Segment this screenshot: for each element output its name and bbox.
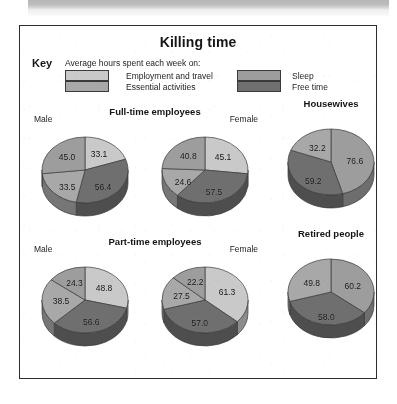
pie-value-label: 45.0 <box>59 152 76 162</box>
pie-canvas-retired-people <box>277 246 385 354</box>
pie-value-label: 49.8 <box>303 278 320 288</box>
pie-sublabel-female-2: Female <box>230 244 258 254</box>
pie-sublabel-male: Male <box>34 114 52 124</box>
pie-value-label: 32.2 <box>309 143 326 153</box>
legend: Key Average hours spent each week on: Em… <box>32 56 366 104</box>
pie-chart-part-time-male: Male 48.856.638.524.3 <box>26 234 144 358</box>
pie-value-label: 33.5 <box>59 182 76 192</box>
legend-swatch-employment-and-travel <box>65 70 109 81</box>
pie-value-label: 56.4 <box>95 182 112 192</box>
pie-value-label: 61.3 <box>219 287 236 297</box>
pie-value-label: 60.2 <box>344 281 361 291</box>
legend-swatch-sleep <box>237 70 281 81</box>
legend-text-employment-and-travel: Employment and travel <box>126 71 213 81</box>
pie-sublabel-female: Female <box>230 114 258 124</box>
pie-value-label: 48.8 <box>96 283 113 293</box>
figure-title: Killing time <box>20 34 376 50</box>
scanner-shadow-band <box>28 0 389 10</box>
scanner-shadow-fade <box>28 10 389 16</box>
pie-value-label: 57.5 <box>206 187 223 197</box>
pie-value-label: 57.0 <box>192 318 209 328</box>
pie-canvas-part-time-female <box>151 254 259 362</box>
pie-canvas-housewives <box>277 116 385 224</box>
pie-chart-retired-people: Retired people 60.258.049.8 <box>272 228 390 352</box>
pie-chart-full-time-female: Female 45.157.524.640.8 <box>146 104 264 228</box>
pie-chart-grid: Male 33.156.433.545.0 Full-time employee… <box>20 104 376 378</box>
pie-value-label: 56.6 <box>83 317 100 327</box>
pie-chart-part-time-female: Female 61.357.027.522.2 <box>146 234 264 358</box>
legend-text-sleep: Sleep <box>292 71 314 81</box>
pie-value-label: 59.2 <box>305 176 322 186</box>
pie-chart-housewives: Housewives 76.659.232.2 <box>272 98 390 222</box>
legend-heading: Key <box>32 57 52 69</box>
legend-swatch-essential-activities <box>65 81 109 92</box>
legend-text-free-time: Free time <box>292 82 328 92</box>
pie-canvas-full-time-female <box>151 124 259 232</box>
figure-container: Killing time Key Average hours spent eac… <box>19 25 377 379</box>
pie-value-label: 27.5 <box>173 291 190 301</box>
group-title-retired-people: Retired people <box>272 228 390 239</box>
legend-text-essential-activities: Essential activities <box>126 82 195 92</box>
pie-sublabel-male-2: Male <box>34 244 52 254</box>
group-title-housewives: Housewives <box>272 98 390 109</box>
pie-value-label: 40.8 <box>180 151 197 161</box>
legend-swatch-free-time <box>237 81 281 92</box>
pie-value-label: 24.3 <box>66 278 83 288</box>
pie-value-label: 45.1 <box>215 152 232 162</box>
pie-value-label: 38.5 <box>53 296 70 306</box>
pie-canvas-part-time-male <box>31 254 139 362</box>
scanned-page: Killing time Key Average hours spent eac… <box>0 0 397 404</box>
pie-value-label: 33.1 <box>91 149 108 159</box>
pie-value-label: 22.2 <box>187 277 204 287</box>
pie-value-label: 58.0 <box>318 312 335 322</box>
pie-value-label: 76.6 <box>347 156 364 166</box>
pie-value-label: 24.6 <box>175 177 192 187</box>
pie-canvas-full-time-male <box>31 124 139 232</box>
legend-caption: Average hours spent each week on: <box>65 58 200 68</box>
pie-chart-full-time-male: Male 33.156.433.545.0 <box>26 104 144 228</box>
